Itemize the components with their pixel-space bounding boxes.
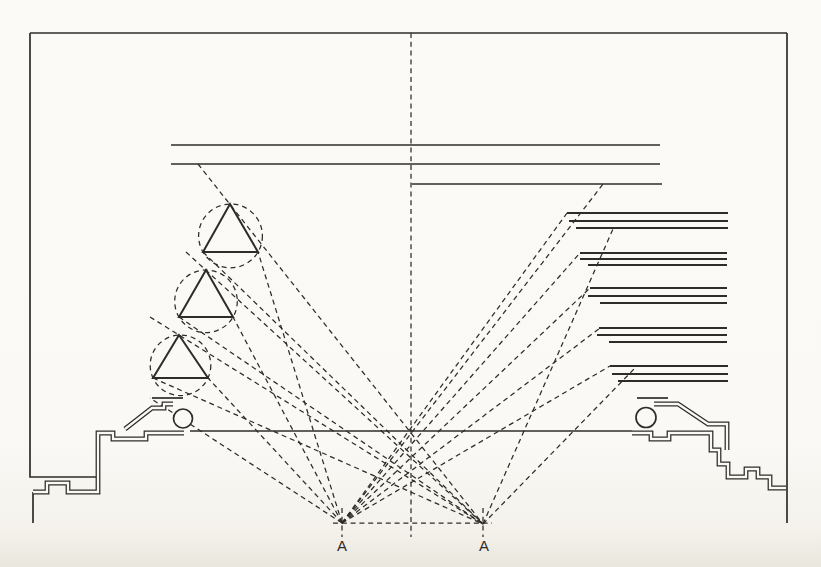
right-wall-profile [632,433,786,488]
ray-leftA-prism2 [233,317,342,523]
label-a-right: A [479,537,489,554]
ray-leftA-shelf3-end [342,184,603,523]
ray-rightA-apex3 [150,317,483,524]
left-cornice-profile [125,404,173,429]
ray-leftA-louver2 [342,253,580,523]
prism-circumcircle-1 [199,204,263,268]
label-a-left: A [337,537,347,554]
ray-leftA-louver3 [342,288,590,523]
prism-circumcircle-2 [175,270,238,333]
frame-left-edge-ledge [30,33,98,477]
ray-rightA-apex2 [186,252,483,524]
ray-rightA-base1 [203,252,483,524]
ray-rightA-louver5 [483,368,635,524]
book-page: AA [0,0,821,567]
left-wall-profile-core [33,433,184,492]
ray-rightA-base3 [153,378,483,524]
ray-leftA-louver5 [342,366,610,523]
ray-rightA-base2 [179,317,483,524]
right-volute-scroll [636,408,656,428]
ray-leftA-louver4 [342,328,600,523]
ray-rightA-apex1 [198,164,483,524]
right-cornice-profile [654,404,727,450]
ray-rightA-louver1 [483,229,613,524]
prism-circumcircle-3 [150,335,211,396]
section-diagram-canvas: AA [0,0,821,567]
left-volute-scroll [174,409,193,428]
ray-leftA-louver1 [342,213,567,523]
ray-leftA-prism3 [208,378,342,523]
